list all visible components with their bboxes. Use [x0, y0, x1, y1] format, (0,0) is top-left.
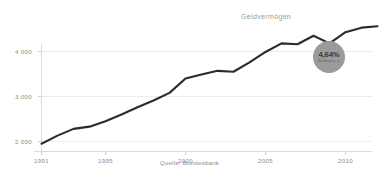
y-tick-label-3000: 3 000	[6, 94, 32, 100]
chart-plot-area	[0, 0, 379, 178]
badge-caption: Wachstum p. a.	[318, 60, 340, 63]
series-label-geldvermoegen: Geldvermögen	[241, 13, 291, 20]
y-tick-label-4000: 4 000	[6, 49, 32, 55]
y-tick-label-2000: 2 000	[6, 139, 32, 145]
source-note: Quelle: Bundesbank	[0, 160, 379, 166]
badge-value: 4,64%	[318, 51, 339, 59]
line-chart: 4 000 3 000 2 000 1991 1995 2000 2005 20…	[0, 0, 379, 178]
growth-rate-badge: 4,64% Wachstum p. a.	[313, 41, 345, 73]
